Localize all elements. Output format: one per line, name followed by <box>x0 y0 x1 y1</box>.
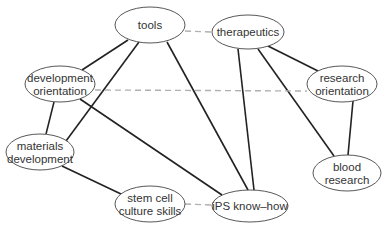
node-label: iPS know–how <box>212 200 288 212</box>
node-label: orientation <box>315 85 369 97</box>
node-research-orientation: researchorientation <box>307 66 377 102</box>
node-materials-development: materialsdevelopment <box>6 134 74 170</box>
edge-development-orientation-ips-know-how <box>80 99 222 195</box>
edge-therapeutics-ips-know-how <box>238 49 254 190</box>
edge-development-orientation-materials-development <box>46 102 54 134</box>
node-stem-cell-culture-skills: stem cellculture skills <box>115 186 185 222</box>
node-therapeutics: therapeutics <box>212 15 284 49</box>
node-blood-research: bloodresearch <box>313 155 381 191</box>
node-tools: tools <box>115 7 185 43</box>
node-label: development <box>7 153 74 165</box>
edge-tools-ips-know-how <box>167 42 248 190</box>
edges-layer <box>46 31 353 205</box>
node-label: culture skills <box>119 205 182 217</box>
edge-therapeutics-research-orientation <box>268 46 318 71</box>
edge-development-orientation-research-orientation <box>95 90 307 91</box>
network-diagram: toolstherapeuticsdevelopmentorientationr… <box>0 0 386 229</box>
node-label: research <box>325 174 370 186</box>
node-label: materials <box>17 140 64 152</box>
edge-stem-cell-culture-skills-ips-know-how <box>185 204 212 205</box>
node-label: blood <box>333 161 361 173</box>
node-label: orientation <box>33 85 87 97</box>
node-ips-know-how: iPS know–how <box>212 190 288 222</box>
node-development-orientation: developmentorientation <box>25 66 95 102</box>
node-label: research <box>320 72 365 84</box>
node-label: tools <box>138 19 163 31</box>
edge-tools-therapeutics <box>185 31 212 32</box>
nodes-layer: toolstherapeuticsdevelopmentorientationr… <box>6 7 381 222</box>
node-label: therapeutics <box>217 26 280 38</box>
edge-materials-development-stem-cell-culture-skills <box>62 166 121 194</box>
node-label: development <box>27 72 94 84</box>
edge-therapeutics-blood-research <box>258 49 334 156</box>
node-label: stem cell <box>127 192 172 204</box>
edge-research-orientation-blood-research <box>348 101 353 155</box>
